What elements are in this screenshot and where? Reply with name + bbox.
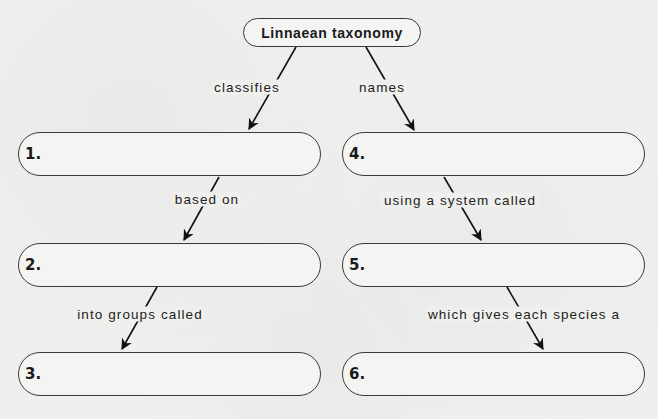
box-number: 1. — [25, 145, 41, 163]
arrow-4-to-5 — [444, 177, 481, 240]
link-label-using-a-system-called: using a system called — [382, 193, 538, 208]
box-number: 3. — [25, 365, 41, 383]
arrow-1-to-2 — [184, 177, 219, 240]
box-number: 6. — [349, 365, 365, 383]
link-label-based-on: based on — [173, 192, 241, 207]
answer-box-2[interactable]: 2. — [18, 243, 321, 287]
root-label: Linnaean taxonomy — [261, 25, 403, 41]
answer-box-4[interactable]: 4. — [342, 132, 645, 176]
link-label-which-gives-each-species-a: which gives each species a — [426, 307, 622, 322]
edge-label-names: names — [357, 80, 407, 95]
edge-label-classifies: classifies — [212, 80, 282, 95]
box-number: 5. — [349, 256, 365, 274]
answer-box-6[interactable]: 6. — [342, 352, 645, 396]
root-node: Linnaean taxonomy — [243, 18, 421, 47]
box-number: 2. — [25, 256, 41, 274]
answer-box-5[interactable]: 5. — [342, 243, 645, 287]
box-number: 4. — [349, 145, 365, 163]
answer-box-1[interactable]: 1. — [18, 132, 321, 176]
link-label-into-groups-called: into groups called — [75, 307, 205, 322]
answer-box-3[interactable]: 3. — [18, 352, 321, 396]
